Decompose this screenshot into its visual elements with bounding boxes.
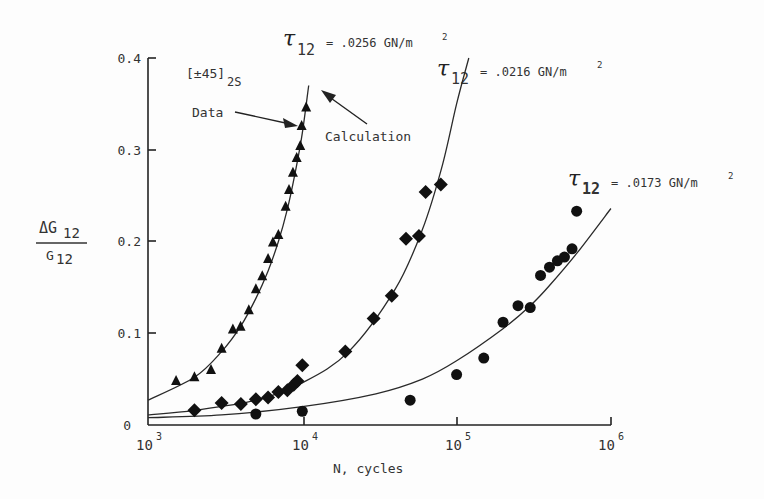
diamond-marker: [187, 403, 201, 417]
circle-marker: [250, 408, 261, 419]
svg-text:0.4: 0.4: [118, 51, 142, 66]
diamond-marker: [385, 289, 399, 303]
svg-text:4: 4: [312, 431, 318, 442]
svg-text:12: 12: [297, 41, 315, 59]
circle-marker: [297, 406, 308, 417]
svg-text:5: 5: [465, 431, 471, 442]
svg-text:= .0216 GN/m: = .0216 GN/m: [480, 65, 567, 79]
layup-annotation: [±45] 2S: [186, 66, 241, 89]
calculation-curve: [148, 86, 309, 401]
triangle-marker: [292, 152, 302, 162]
circle-marker: [498, 317, 509, 328]
x-axis-label: N, cycles: [333, 461, 403, 476]
circle-marker: [535, 270, 546, 281]
svg-text:10: 10: [292, 437, 309, 453]
svg-text:= .0256 GN/m: = .0256 GN/m: [326, 36, 413, 50]
svg-text:[±45]: [±45]: [186, 66, 225, 81]
svg-text:12: 12: [56, 251, 73, 267]
triangle-marker: [189, 371, 199, 381]
svg-text:10: 10: [136, 437, 153, 453]
fatigue-chart: 0 0.1 0.2 0.3 0.4 10 3 10 4 10 5 10 6 N,…: [0, 0, 764, 499]
circle-marker: [478, 353, 489, 364]
diamond-marker: [249, 392, 263, 406]
y-axis-label: ΔG 12 12 G 12: [36, 219, 87, 267]
svg-text:10: 10: [598, 437, 615, 453]
triangle-marker: [171, 375, 181, 385]
diamond-marker: [367, 312, 381, 326]
svg-text:= .0173 GN/m: = .0173 GN/m: [611, 176, 698, 190]
svg-text:2S: 2S: [227, 75, 241, 89]
circle-marker: [525, 302, 536, 313]
diamond-marker: [419, 185, 433, 199]
diamond-marker: [412, 229, 426, 243]
svg-text:12: 12: [582, 180, 600, 198]
diamond-marker: [234, 397, 248, 411]
triangle-marker: [297, 120, 307, 130]
svg-text:12: 12: [63, 225, 80, 241]
svg-text:0.3: 0.3: [118, 143, 141, 158]
diamond-marker: [338, 345, 352, 359]
tau-label-0173: τ 12 = .0173 GN/m 2: [568, 166, 733, 198]
triangle-marker: [251, 283, 261, 293]
svg-text:ΔG: ΔG: [39, 219, 57, 237]
triangle-marker: [206, 364, 216, 374]
svg-text:2: 2: [728, 171, 733, 181]
svg-text:τ: τ: [283, 26, 296, 51]
svg-text:2: 2: [442, 32, 447, 42]
triangle-marker: [301, 102, 311, 112]
x-tick-labels: 10 3 10 4 10 5 10 6: [136, 431, 624, 453]
triangle-marker: [228, 324, 238, 334]
svg-text:10: 10: [445, 437, 462, 453]
calculation-annotation: Calculation: [321, 90, 411, 144]
y-tick-labels: 0 0.1 0.2 0.3 0.4: [118, 51, 142, 433]
tau-label-0256: τ 12 = .0256 GN/m 2: [283, 26, 447, 59]
circle-marker: [405, 395, 416, 406]
svg-text:0.2: 0.2: [118, 234, 141, 249]
triangle-marker: [263, 253, 273, 263]
svg-text:0: 0: [123, 418, 131, 433]
diamond-marker: [295, 358, 309, 372]
triangle-marker: [236, 321, 246, 331]
svg-text:τ: τ: [568, 166, 581, 191]
circle-marker: [451, 369, 462, 380]
svg-text:2: 2: [597, 60, 602, 70]
svg-text:τ: τ: [437, 56, 450, 81]
circle-marker: [571, 206, 582, 217]
data-annotation: Data: [192, 105, 298, 128]
svg-text:Data: Data: [192, 105, 223, 120]
svg-text:G: G: [46, 248, 54, 263]
triangle-marker: [295, 140, 305, 150]
svg-text:6: 6: [618, 431, 624, 442]
diamond-marker: [399, 232, 413, 246]
circle-marker: [513, 300, 524, 311]
circle-marker: [559, 252, 570, 263]
svg-text:12: 12: [451, 70, 469, 88]
svg-text:0.1: 0.1: [118, 326, 141, 341]
svg-text:Calculation: Calculation: [325, 129, 411, 144]
svg-text:3: 3: [156, 431, 162, 442]
circle-marker: [567, 243, 578, 254]
data-points: [171, 102, 582, 420]
